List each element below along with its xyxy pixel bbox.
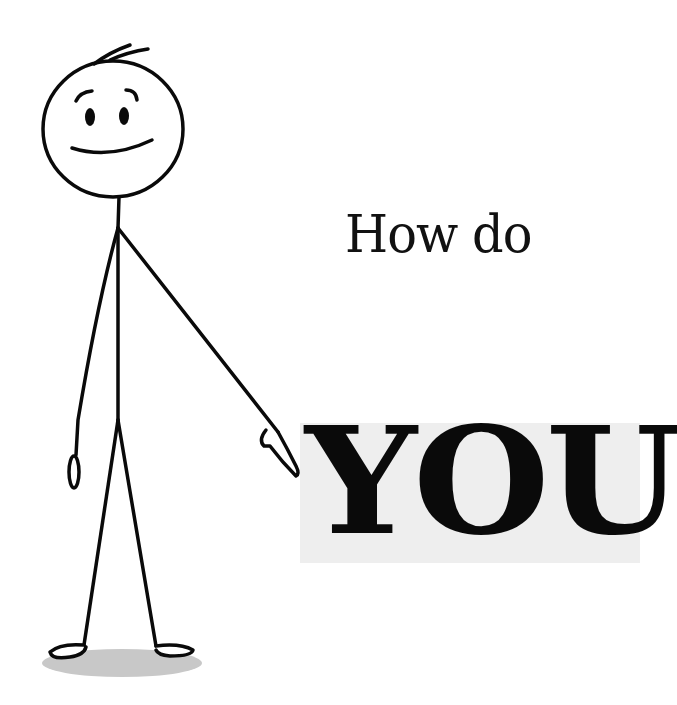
left-arm [76, 228, 118, 455]
left-eye [85, 108, 95, 126]
stick-figure [0, 0, 677, 705]
left-leg [84, 420, 118, 645]
headline-how-do: How do [345, 208, 531, 260]
right-eye [119, 107, 129, 125]
neck [118, 197, 119, 228]
left-hand [69, 456, 79, 488]
right-leg [118, 420, 156, 646]
right-foot [156, 645, 193, 656]
headline-you: YOU [305, 408, 628, 555]
pointing-hand [261, 430, 298, 476]
head [43, 61, 183, 197]
right-arm [118, 228, 278, 432]
